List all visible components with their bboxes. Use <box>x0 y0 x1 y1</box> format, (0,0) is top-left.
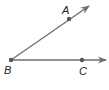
point-c <box>80 58 84 62</box>
ray-ba <box>11 6 89 60</box>
point-a <box>67 17 71 21</box>
point-b <box>9 58 13 62</box>
angle-abc-diagram: A B C <box>0 0 109 90</box>
label-a: A <box>61 4 69 16</box>
label-b: B <box>4 64 11 76</box>
label-c: C <box>79 65 87 77</box>
